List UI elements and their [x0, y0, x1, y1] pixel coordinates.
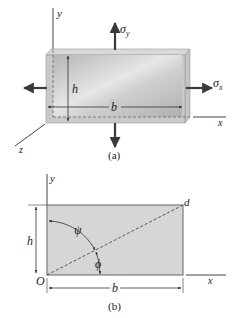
phi-label: ϕ — [95, 257, 101, 271]
b-label-b: b — [112, 281, 118, 295]
x-axis-label-a: x — [217, 117, 223, 128]
plate-top-face — [46, 49, 190, 55]
y-axis-label-b: y — [49, 172, 55, 184]
y-axis-label-a: y — [56, 7, 62, 19]
psi-label: ψ — [74, 223, 82, 237]
sigma-y-label: σy — [120, 22, 130, 38]
figure-canvas: y z x h b σy σx (a) — [0, 0, 236, 318]
sigma-x-label: σx — [213, 76, 223, 92]
z-axis-a — [15, 124, 45, 146]
h-label-b: h — [27, 234, 33, 248]
caption-b: (b) — [108, 300, 121, 313]
origin-label: O — [36, 274, 45, 288]
caption-a: (a) — [108, 149, 121, 162]
h-label-a: h — [72, 82, 78, 96]
figure-b: y x O d ψ ϕ h b (b) — [27, 172, 226, 313]
b-label-a: b — [111, 100, 117, 114]
x-axis-label-b: x — [207, 275, 213, 286]
figure-a: y z x h b σy σx (a) — [15, 7, 226, 162]
plate-side-face — [185, 49, 190, 123]
z-axis-label-a: z — [18, 144, 23, 155]
corner-d-label: d — [184, 196, 190, 208]
